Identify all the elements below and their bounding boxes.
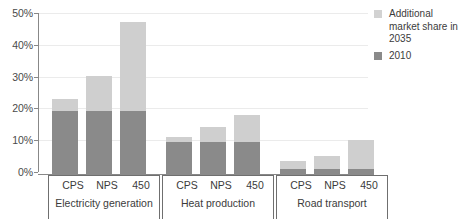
scenario-label-cps: CPS	[284, 179, 318, 191]
y-axis-labels: 50% 40% 30% 20% 10% 0%	[0, 10, 33, 175]
y-axis-tick	[34, 172, 38, 173]
bar-road-nps	[314, 156, 340, 175]
y-axis-tick-label: 50%	[12, 7, 33, 19]
bar-segment-additional	[348, 140, 374, 169]
group-title-road: Road transport	[277, 197, 387, 209]
y-axis-line	[38, 13, 39, 172]
legend-label-2010: 2010	[389, 50, 462, 63]
bar-road-cps	[280, 161, 306, 175]
scenario-label-450: 450	[124, 179, 158, 191]
y-axis-tick	[34, 140, 38, 141]
y-axis-tick	[34, 108, 38, 109]
legend-item-2010: 2010	[374, 50, 462, 63]
bar-segment-2010	[120, 111, 146, 175]
bar-segment-additional	[314, 156, 340, 169]
bar-electricity-450	[120, 22, 146, 175]
group-title-heat: Heat production	[163, 197, 273, 209]
group-box-electricity: CPS NPS 450 Electricity generation	[48, 175, 160, 219]
y-axis-tick-label: 40%	[12, 39, 33, 51]
bar-heat-450	[234, 115, 260, 175]
scenario-label-450: 450	[352, 179, 386, 191]
gridline	[39, 13, 368, 14]
bar-segment-2010	[200, 142, 226, 175]
bar-electricity-cps	[52, 99, 78, 175]
bar-heat-cps	[166, 137, 192, 175]
scenario-label-nps: NPS	[204, 179, 238, 191]
y-axis-tick-label: 20%	[12, 102, 33, 114]
bar-segment-2010	[234, 142, 260, 175]
scenario-label-cps: CPS	[170, 179, 204, 191]
scenario-label-450: 450	[238, 179, 272, 191]
scenario-label-cps: CPS	[56, 179, 90, 191]
y-axis-tick	[34, 77, 38, 78]
bar-segment-additional	[234, 115, 260, 142]
bar-road-450	[348, 140, 374, 175]
bar-segment-additional	[280, 161, 306, 169]
y-axis-tick-label: 30%	[12, 71, 33, 83]
chart-legend: Additional market share in 2035 2010	[374, 8, 462, 66]
bar-segment-2010	[86, 111, 112, 175]
scenario-labels: CPS NPS 450	[163, 179, 273, 194]
scenario-label-nps: NPS	[90, 179, 124, 191]
group-title-electricity: Electricity generation	[49, 197, 159, 209]
group-box-road: CPS NPS 450 Road transport	[276, 175, 388, 219]
legend-swatch-icon	[374, 52, 382, 60]
bar-heat-nps	[200, 127, 226, 175]
scenario-labels: CPS NPS 450	[277, 179, 387, 194]
x-axis-group-boxes: CPS NPS 450 Electricity generation CPS N…	[38, 175, 368, 220]
plot-area	[38, 10, 368, 175]
legend-label-additional: Additional market share in 2035	[389, 8, 462, 46]
bar-segment-additional	[86, 76, 112, 111]
gridline	[39, 45, 368, 46]
bar-segment-additional	[52, 99, 78, 112]
bar-segment-2010	[52, 111, 78, 175]
y-axis-tick	[34, 45, 38, 46]
bar-electricity-nps	[86, 76, 112, 175]
scenario-labels: CPS NPS 450	[49, 179, 159, 194]
y-axis-tick-label: 10%	[12, 134, 33, 146]
bar-segment-additional	[120, 22, 146, 111]
scenario-label-nps: NPS	[318, 179, 352, 191]
legend-item-additional: Additional market share in 2035	[374, 8, 462, 46]
y-axis-tick-label: 0%	[18, 166, 33, 178]
y-axis-tick	[34, 13, 38, 14]
legend-swatch-icon	[374, 10, 382, 18]
stacked-bar-chart: 50% 40% 30% 20% 10% 0%	[0, 0, 464, 223]
group-box-heat: CPS NPS 450 Heat production	[162, 175, 274, 219]
bar-segment-2010	[166, 142, 192, 175]
bar-segment-additional	[200, 127, 226, 141]
